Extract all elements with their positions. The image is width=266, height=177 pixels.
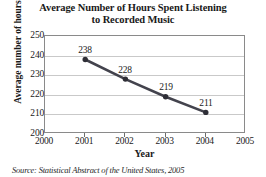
x-tick-label-2000: 2000: [27, 136, 61, 146]
data-point-2004: [203, 110, 208, 115]
chart-title: Average Number of Hours Spent Listening …: [26, 2, 240, 25]
x-axis-title: Year: [44, 148, 245, 159]
chart-figure: Average Number of Hours Spent Listening …: [0, 0, 266, 177]
y-tick-label-230: 230: [20, 70, 44, 80]
x-tick-label-2005: 2005: [228, 136, 262, 146]
y-tick-label-240: 240: [20, 51, 44, 61]
data-label-2002: 228: [110, 65, 140, 75]
y-tick-label-220: 220: [20, 90, 44, 100]
chart-title-line-1: Average Number of Hours Spent Listening: [26, 2, 240, 14]
y-tick-label-250: 250: [20, 31, 44, 41]
data-point-2003: [163, 94, 168, 99]
series-polyline: [85, 60, 206, 113]
data-label-2001: 238: [70, 45, 100, 55]
x-tick-label-2002: 2002: [107, 136, 141, 146]
y-tick-label-210: 210: [20, 109, 44, 119]
data-label-2003: 219: [151, 82, 181, 92]
data-point-2001: [83, 57, 88, 62]
source-note: Source: Statistical Abstract of the Unit…: [12, 166, 184, 175]
x-tick-label-2004: 2004: [188, 136, 222, 146]
x-tick-label-2003: 2003: [148, 136, 182, 146]
chart-title-line-2: to Recorded Music: [26, 14, 240, 26]
data-point-2002: [123, 76, 128, 81]
data-label-2004: 211: [191, 98, 221, 108]
x-tick-label-2001: 2001: [67, 136, 101, 146]
